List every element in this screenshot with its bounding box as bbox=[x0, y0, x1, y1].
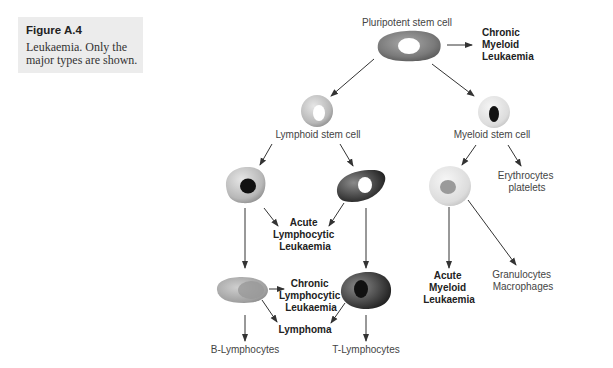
leukaemia-diagram: Pluripotent stem cell Chronic Myeloid Le… bbox=[0, 0, 613, 368]
b-precursor-cell bbox=[226, 167, 265, 203]
cll-label: Chronic Lymphocytic Leukaemia bbox=[279, 278, 343, 313]
arrow-to-lymphoid bbox=[331, 59, 374, 96]
lymphoma-label: Lymphoma bbox=[279, 324, 332, 335]
lymphoid-stem-cell bbox=[301, 95, 333, 127]
arrow-b-to-lymphoma bbox=[262, 300, 277, 322]
lymphoid-label: Lymphoid stem cell bbox=[275, 129, 360, 140]
arrow-to-t-precursor bbox=[340, 144, 353, 166]
t-precursor-cell bbox=[337, 170, 385, 202]
granulocytes-label: Granulocytes Macrophages bbox=[492, 269, 554, 292]
erythrocytes-label: Erythrocytes platelets bbox=[498, 170, 556, 193]
myeloid-precursor-cell bbox=[429, 166, 471, 206]
arrow-to-granulocytes bbox=[468, 200, 516, 265]
arrow-b-to-all bbox=[264, 208, 278, 226]
pluripotent-stem-cell bbox=[378, 31, 441, 61]
all-label: Acute Lymphocytic Leukaemia bbox=[273, 217, 337, 252]
arrow-t-to-all bbox=[329, 203, 344, 226]
b-lymphocyte-cell bbox=[217, 277, 268, 303]
aml-label: Acute Myeloid Leukaemia bbox=[423, 270, 475, 305]
arrow-to-myeloid bbox=[432, 64, 474, 96]
b-lymphocytes-label: B-Lymphocytes bbox=[211, 344, 280, 355]
t-lymphocyte-cell bbox=[341, 272, 391, 309]
arrow-to-myeloid-precursor bbox=[462, 145, 476, 165]
myeloid-label: Myeloid stem cell bbox=[454, 129, 531, 140]
pluripotent-label: Pluripotent stem cell bbox=[362, 17, 452, 28]
cml-label: Chronic Myeloid Leukaemia bbox=[482, 27, 534, 62]
t-lymphocytes-label: T-Lymphocytes bbox=[332, 344, 399, 355]
arrow-to-erythrocytes bbox=[508, 145, 521, 166]
arrow-to-b-precursor bbox=[260, 144, 272, 165]
myeloid-stem-cell bbox=[478, 96, 510, 128]
